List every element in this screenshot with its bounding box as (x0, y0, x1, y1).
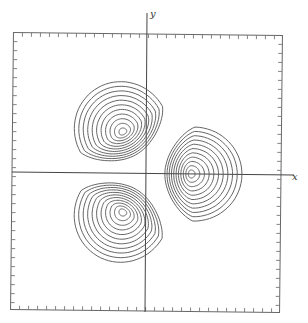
contour-lobes (74, 82, 242, 263)
y-axis-label: y (150, 8, 156, 19)
contour-line (115, 123, 131, 138)
lobe-upper-left (74, 82, 162, 161)
contour-line (79, 185, 159, 258)
lobe-lower-left (74, 183, 162, 262)
x-axis-label: x (292, 171, 298, 182)
contour-line (79, 86, 159, 158)
contour-line (119, 209, 127, 216)
contour-line (115, 206, 131, 221)
contour-plot (0, 0, 308, 323)
contour-line (119, 128, 127, 135)
y-axis (145, 13, 147, 312)
x-axis (12, 172, 294, 175)
